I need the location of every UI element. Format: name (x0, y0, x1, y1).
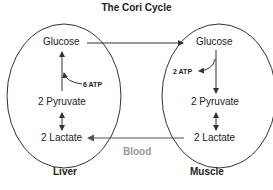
muscle-atp-curve (199, 59, 215, 71)
cori-cycle-diagram (0, 0, 273, 190)
liver-label: Liver (53, 166, 77, 177)
muscle-glucose-label: Glucose (196, 36, 233, 47)
liver-glucose-label: Glucose (43, 36, 80, 47)
liver-pyruvate-label: 2 Pyruvate (38, 96, 86, 107)
liver-atp-label: 6 ATP (83, 81, 102, 88)
muscle-label: Muscle (190, 166, 224, 177)
diagram-title: The Cori Cycle (0, 2, 273, 13)
blood-label: Blood (123, 146, 151, 157)
liver-lactate-label: 2 Lactate (41, 132, 82, 143)
muscle-pyruvate-label: 2 Pyruvate (191, 96, 239, 107)
liver-atp-curve (64, 73, 82, 84)
muscle-atp-label: 2 ATP (173, 68, 192, 75)
muscle-lactate-label: 2 Lactate (194, 132, 235, 143)
